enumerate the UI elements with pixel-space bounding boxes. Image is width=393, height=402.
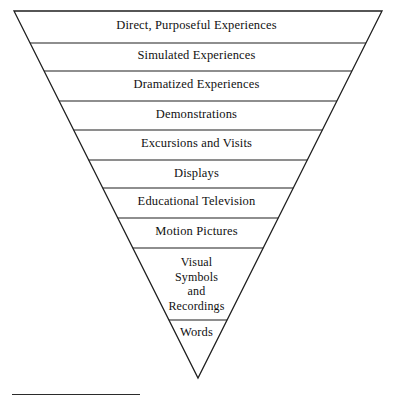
footer-rule: [12, 394, 140, 395]
cone-of-experience-figure: Direct, Purposeful ExperiencesSimulated …: [0, 0, 393, 402]
triangle-outline: [14, 11, 382, 378]
cone-triangle-graphic: [0, 0, 393, 402]
